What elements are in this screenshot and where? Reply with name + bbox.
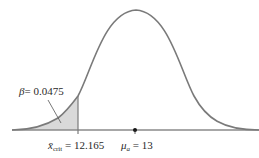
normal-curve-chart [0, 0, 259, 158]
distribution-curve [12, 10, 259, 130]
beta-label: β= 0.0475 [19, 86, 64, 97]
xcrit-label: x̄crit = 12.165 [48, 140, 104, 153]
mu-label: μa = 13 [121, 140, 153, 153]
